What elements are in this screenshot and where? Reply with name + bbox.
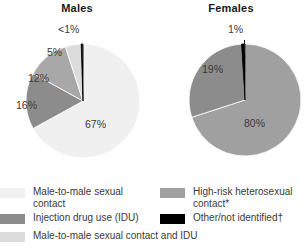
- males-label-idu: 16%: [16, 99, 37, 111]
- legend-label: Injection drug use (IDU): [33, 212, 139, 224]
- legend-column-left: Male-to-male sexual contact Injection dr…: [0, 186, 152, 227]
- legend-label: Other/not identified†: [193, 212, 283, 224]
- legend-item-male-to-male-sexual-contact[interactable]: Male-to-male sexual contact: [0, 186, 152, 209]
- males-chart-panel: Males <1% 5% 12%: [0, 0, 154, 185]
- legend-item-other-not-identified[interactable]: Other/not identified†: [160, 212, 308, 224]
- legend-swatch-icon: [160, 214, 185, 224]
- females-label-hrh: 80%: [244, 117, 265, 129]
- females-pie-wrapper: 1% 19% 80%: [154, 0, 308, 185]
- males-leader-line: [82, 44, 83, 60]
- females-label-idu: 19%: [202, 63, 223, 75]
- legend-item-injection-drug-use[interactable]: Injection drug use (IDU): [0, 212, 152, 224]
- females-chart-panel: Females 1% 19% 80%: [154, 0, 308, 185]
- pie-charts-figure: Males <1% 5% 12%: [0, 0, 308, 185]
- legend-label: Male-to-male sexual contact: [33, 186, 123, 209]
- legend-label: High-risk heterosexual contact*: [193, 186, 293, 209]
- legend-swatch-icon: [0, 214, 25, 224]
- males-label-mm-idu: 5%: [47, 46, 62, 58]
- legend-item-male-to-male-sexual-contact-and-idu[interactable]: Male-to-male sexual contact and IDU: [0, 230, 198, 242]
- females-leader-line: [244, 40, 245, 54]
- legend-swatch-icon: [0, 232, 25, 242]
- legend-swatch-icon: [160, 188, 185, 198]
- legend-item-high-risk-heterosexual-contact[interactable]: High-risk heterosexual contact*: [160, 186, 308, 209]
- males-label-hrh: 12%: [28, 72, 49, 84]
- males-pie-wrapper: <1% 5% 12% 16% 67%: [0, 0, 154, 185]
- chart-legend: Male-to-male sexual contact Injection dr…: [0, 186, 308, 251]
- females-label-other: 1%: [228, 23, 243, 35]
- legend-column-right: High-risk heterosexual contact* Other/no…: [160, 186, 308, 227]
- legend-label: Male-to-male sexual contact and IDU: [33, 230, 198, 242]
- males-label-mm: 67%: [85, 118, 106, 130]
- legend-swatch-icon: [0, 188, 25, 198]
- males-label-other: <1%: [58, 23, 79, 35]
